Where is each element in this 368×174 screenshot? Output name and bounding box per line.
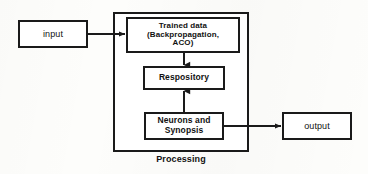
diagram-canvas: input Trained data (Backpropagation, ACO… [0, 0, 368, 174]
processing-caption: Processing [113, 154, 249, 164]
node-input-label: input [43, 29, 63, 39]
node-trained-data-label: Trained data (Backpropagation, ACO) [147, 22, 219, 49]
node-output: output [282, 112, 352, 140]
node-neurons-and-synopsis-label: Neurons and Synopsis [157, 116, 210, 135]
node-respository-label: Respository [159, 73, 209, 83]
node-output-label: output [304, 121, 330, 131]
node-input: input [18, 20, 88, 48]
node-neurons-and-synopsis: Neurons and Synopsis [144, 112, 224, 140]
node-respository: Respository [143, 66, 225, 90]
node-trained-data: Trained data (Backpropagation, ACO) [126, 17, 240, 53]
